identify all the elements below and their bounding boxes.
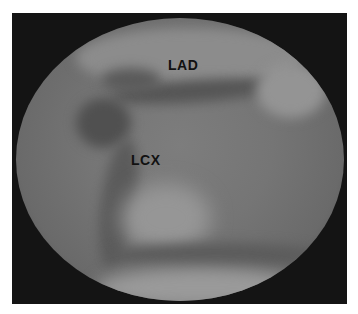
dark-band-lower: [106, 243, 326, 268]
label-lcx: LCX: [131, 152, 161, 168]
label-lad: LAD: [168, 57, 198, 73]
bright-region-right: [256, 63, 326, 118]
bright-region-bottom: [96, 268, 306, 301]
angiogram-frame: LAD LCX: [12, 13, 347, 304]
vessel-lad-branch: [101, 68, 161, 92]
